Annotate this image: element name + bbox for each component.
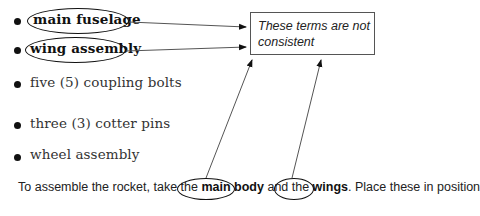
arrow-main-fuselage-to-box (129, 22, 246, 27)
arrow-wings-to-box (292, 60, 321, 178)
arrow-wing-assembly-to-box (126, 47, 246, 51)
arrow-main-body-to-box (206, 60, 252, 178)
